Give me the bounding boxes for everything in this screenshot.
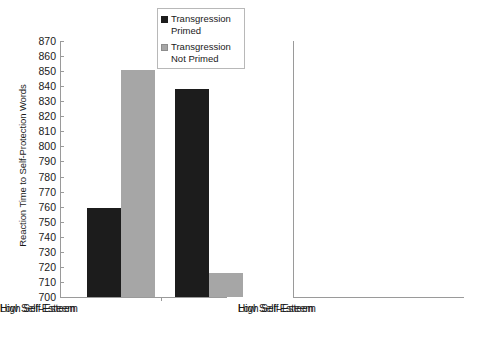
chart-legend: TransgressionPrimed TransgressionNot Pri…: [157, 8, 245, 69]
y-axis-title: Reaction Time to Self-Protection Words: [17, 51, 28, 281]
y-tick-label: 750: [38, 216, 56, 228]
y-tick-label: 710: [38, 276, 56, 288]
dual-bar-chart-figure: Reaction Time to Self-Protection Words 8…: [0, 0, 477, 347]
plot-area-right: [293, 41, 464, 298]
y-tick-label: 730: [38, 246, 56, 258]
legend-swatch-notprimed-icon: [161, 44, 168, 51]
y-tick-label: 850: [38, 65, 56, 77]
legend-item-transgression-not-primed: TransgressionNot Primed: [161, 41, 240, 64]
bar-primed-low-left: [87, 208, 121, 297]
bar-group-high-self-esteem-left: [169, 41, 249, 297]
y-tick-label: 840: [38, 80, 56, 92]
y-tick-label: 700: [38, 291, 56, 303]
bar-primed-high-left: [175, 89, 209, 297]
legend-swatch-primed-icon: [161, 16, 168, 23]
y-tick-label: 860: [38, 50, 56, 62]
y-tick-label: 790: [38, 155, 56, 167]
y-tick-label: 770: [38, 186, 56, 198]
category-separator-tick: [161, 297, 162, 301]
legend-item-transgression-primed: TransgressionPrimed: [161, 13, 240, 36]
chart-panel-right: Low Self-Esteem High Self-Esteem: [238, 0, 477, 347]
plot-area-left: [60, 41, 227, 298]
legend-label-primed: TransgressionPrimed: [171, 13, 231, 36]
y-tick-label: 760: [38, 201, 56, 213]
y-tick-label: 820: [38, 110, 56, 122]
y-tick-label: 740: [38, 231, 56, 243]
bar-group-low-self-esteem-left: [81, 41, 161, 297]
category-label-high-right: High Self-Esteem: [238, 303, 316, 314]
bar-notprimed-low-left: [121, 70, 155, 297]
y-tick-label: 780: [38, 171, 56, 183]
y-axis-tick-labels-left: 8708608508408308208108007907807707607507…: [28, 41, 56, 297]
y-tick-label: 720: [38, 261, 56, 273]
y-tick-label: 800: [38, 140, 56, 152]
y-tick-label: 810: [38, 125, 56, 137]
legend-label-notprimed: TransgressionNot Primed: [171, 41, 231, 64]
y-tick-label: 830: [38, 95, 56, 107]
y-tick-label: 870: [38, 35, 56, 47]
y-axis-tick-labels-right: [261, 41, 289, 297]
category-label-high-left: High Self-Esteem: [0, 303, 78, 314]
